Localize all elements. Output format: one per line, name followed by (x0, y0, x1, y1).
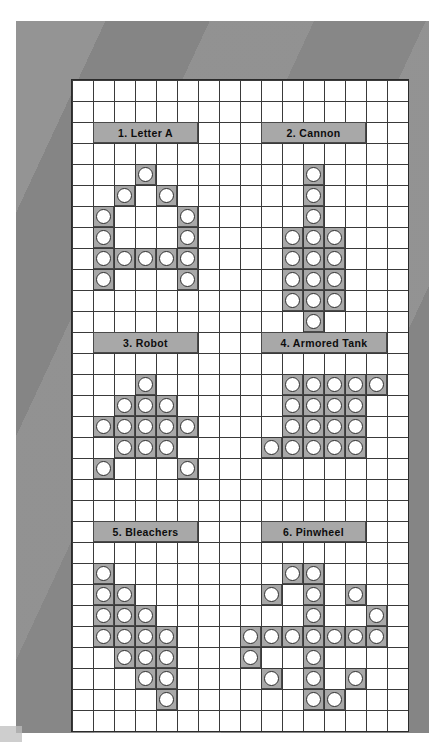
puzzle-cell (114, 605, 135, 626)
puzzle-cell (303, 164, 324, 185)
puzzle-cell (366, 374, 387, 395)
puzzle-cell (93, 206, 114, 227)
puzzle-cell (366, 626, 387, 647)
peg-disc-icon (348, 377, 363, 392)
peg-disc-icon (180, 461, 195, 476)
puzzle-cell (177, 227, 198, 248)
puzzle-cell (303, 395, 324, 416)
puzzle-cell (114, 584, 135, 605)
puzzle-cell (156, 437, 177, 458)
peg-disc-icon (96, 566, 111, 581)
peg-disc-icon (327, 398, 342, 413)
puzzle-cell (324, 248, 345, 269)
puzzle-cell (135, 647, 156, 668)
puzzle-cell (135, 164, 156, 185)
puzzle-cell (324, 689, 345, 710)
peg-disc-icon (159, 440, 174, 455)
puzzle-cell (303, 437, 324, 458)
peg-disc-icon (348, 419, 363, 434)
peg-disc-icon (96, 629, 111, 644)
puzzle-cell (345, 437, 366, 458)
peg-disc-icon (138, 377, 153, 392)
peg-disc-icon (264, 629, 279, 644)
peg-disc-icon (306, 314, 321, 329)
peg-disc-icon (264, 440, 279, 455)
peg-disc-icon (369, 377, 384, 392)
peg-disc-icon (306, 419, 321, 434)
peg-disc-icon (264, 587, 279, 602)
puzzle-cell (114, 185, 135, 206)
peg-disc-icon (327, 230, 342, 245)
peg-disc-icon (96, 230, 111, 245)
peg-disc-icon (327, 272, 342, 287)
puzzle-cell (135, 668, 156, 689)
peg-disc-icon (306, 230, 321, 245)
peg-disc-icon (117, 440, 132, 455)
puzzle-cell (324, 416, 345, 437)
puzzle-label-3: 3. Robot (93, 332, 198, 353)
puzzle-cell (303, 647, 324, 668)
puzzle-cell (156, 395, 177, 416)
puzzle-cell (261, 668, 282, 689)
page-edge-smudge (0, 726, 22, 742)
peg-disc-icon (117, 398, 132, 413)
puzzle-cell (345, 416, 366, 437)
peg-disc-icon (138, 650, 153, 665)
puzzle-cell (93, 626, 114, 647)
puzzle-cell (282, 395, 303, 416)
puzzle-cell (156, 647, 177, 668)
peg-disc-icon (285, 629, 300, 644)
peg-disc-icon (180, 230, 195, 245)
puzzle-cell (135, 437, 156, 458)
puzzle-cell (282, 290, 303, 311)
puzzle-cell (282, 374, 303, 395)
puzzle-cell (345, 668, 366, 689)
puzzle-cell (156, 626, 177, 647)
peg-disc-icon (159, 650, 174, 665)
puzzle-cell (282, 416, 303, 437)
peg-disc-icon (180, 209, 195, 224)
peg-disc-icon (243, 650, 258, 665)
puzzle-cell (303, 311, 324, 332)
puzzle-cell (93, 563, 114, 584)
peg-disc-icon (306, 608, 321, 623)
peg-disc-icon (117, 608, 132, 623)
puzzle-cell (93, 605, 114, 626)
peg-disc-icon (306, 377, 321, 392)
peg-disc-icon (306, 650, 321, 665)
peg-disc-icon (306, 293, 321, 308)
puzzle-cell (303, 248, 324, 269)
peg-disc-icon (159, 629, 174, 644)
peg-disc-icon (285, 566, 300, 581)
peg-disc-icon (327, 692, 342, 707)
peg-disc-icon (96, 272, 111, 287)
puzzle-label-1: 1. Letter A (93, 122, 198, 143)
peg-disc-icon (285, 293, 300, 308)
peg-disc-icon (306, 629, 321, 644)
puzzle-cell (324, 227, 345, 248)
peg-disc-icon (117, 188, 132, 203)
peg-disc-icon (96, 419, 111, 434)
puzzle-cell (303, 416, 324, 437)
puzzle-cell (261, 584, 282, 605)
peg-disc-icon (306, 440, 321, 455)
puzzle-cell (240, 647, 261, 668)
peg-disc-icon (306, 209, 321, 224)
peg-disc-icon (159, 671, 174, 686)
peg-disc-icon (138, 671, 153, 686)
peg-disc-icon (264, 671, 279, 686)
puzzle-cell (114, 626, 135, 647)
puzzle-cell (114, 416, 135, 437)
peg-disc-icon (96, 251, 111, 266)
puzzle-cell (324, 269, 345, 290)
puzzle-cell (282, 227, 303, 248)
peg-disc-icon (306, 398, 321, 413)
peg-disc-icon (306, 188, 321, 203)
puzzle-cell (135, 248, 156, 269)
peg-disc-icon (117, 419, 132, 434)
peg-disc-icon (306, 167, 321, 182)
peg-disc-icon (96, 209, 111, 224)
puzzle-grid-board: 1. Letter A2. Cannon3. Robot4. Armored T… (71, 79, 409, 732)
puzzle-cell (93, 227, 114, 248)
peg-disc-icon (327, 440, 342, 455)
